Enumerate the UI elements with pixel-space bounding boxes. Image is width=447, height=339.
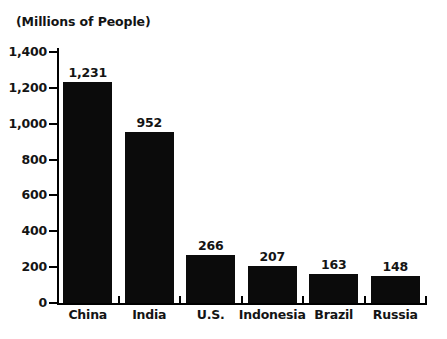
x-tick-mark (118, 296, 120, 305)
x-tick-mark (425, 296, 427, 305)
bar-china (63, 82, 112, 303)
y-tick-label: 1,200 (0, 80, 47, 94)
population-bar-chart: (Millions of People) 02004006008001,0001… (0, 0, 447, 339)
x-tick-mark (241, 296, 243, 305)
y-tick-label-text: 1,200 (3, 80, 47, 95)
y-tick-label-text: 1,000 (3, 116, 47, 131)
y-tick-label-text: 600 (3, 187, 47, 202)
category-label-russia: Russia (350, 307, 440, 322)
y-tick-label: 400 (0, 223, 47, 237)
y-tick-label-text: 0 (3, 295, 47, 310)
y-tick-mark (49, 194, 58, 196)
plot-area: 02004006008001,0001,2001,400 1,231952266… (0, 0, 447, 339)
y-tick-label: 1,000 (0, 116, 47, 130)
x-tick-mark (302, 296, 304, 305)
y-tick-mark (49, 302, 58, 304)
y-tick-label: 1,400 (0, 44, 47, 58)
y-tick-label-text: 1,400 (3, 44, 47, 59)
bar-value-label: 148 (355, 259, 435, 274)
y-tick-label: 600 (0, 187, 47, 201)
bar-u-s (186, 255, 235, 303)
y-tick-mark (49, 123, 58, 125)
y-tick-label-text: 400 (3, 223, 47, 238)
y-tick-mark (49, 51, 58, 53)
bar-value-label: 1,231 (48, 65, 128, 80)
bar-indonesia (248, 266, 297, 303)
bar-india (125, 132, 174, 303)
y-tick-mark (49, 230, 58, 232)
y-tick-label-text: 200 (3, 259, 47, 274)
x-tick-mark (179, 296, 181, 305)
y-tick-label: 200 (0, 259, 47, 273)
y-tick-label: 0 (0, 295, 47, 309)
bar-russia (371, 276, 420, 303)
y-tick-label-text: 800 (3, 152, 47, 167)
bar-brazil (309, 274, 358, 303)
y-tick-mark (49, 87, 58, 89)
y-tick-mark (49, 266, 58, 268)
x-tick-mark (364, 296, 366, 305)
y-tick-mark (49, 159, 58, 161)
y-tick-label: 800 (0, 152, 47, 166)
bar-value-label: 952 (109, 115, 189, 130)
